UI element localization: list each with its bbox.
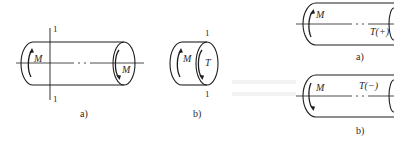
caption: a) (356, 51, 364, 63)
torque-label: T(−) (359, 80, 379, 92)
moment-label-right: M (121, 64, 131, 75)
torque-arrow-icon (198, 50, 204, 80)
torsion-diagram: 1 1 M M a) 1 1 M T (0, 0, 394, 141)
caption: b) (356, 125, 364, 137)
section-label-bottom: 1 (53, 94, 58, 104)
moment-arrow-icon (309, 9, 315, 37)
moment-arrow-icon (309, 83, 315, 111)
moment-label: M (182, 53, 192, 64)
caption: a) (80, 108, 88, 120)
ghost-background (232, 80, 296, 96)
section-label-top: 1 (53, 24, 58, 34)
moment-label-left: M (33, 53, 43, 64)
caption: b) (193, 108, 201, 120)
moment-arrow-right-icon (115, 50, 121, 80)
torque-label: T(+) (370, 26, 390, 38)
figure-right-a: M T(+) a) (296, 3, 394, 63)
moment-label: M (315, 82, 325, 93)
figure-left-b: 1 1 M T b) (170, 28, 218, 120)
section-label-top: 1 (205, 28, 210, 38)
figure-right-b: M T(−) b) (296, 75, 394, 137)
torque-label: T (205, 57, 212, 68)
moment-label: M (315, 9, 325, 20)
section-label-bottom: 1 (205, 89, 210, 99)
figure-left-a: 1 1 M M a) (16, 24, 144, 120)
